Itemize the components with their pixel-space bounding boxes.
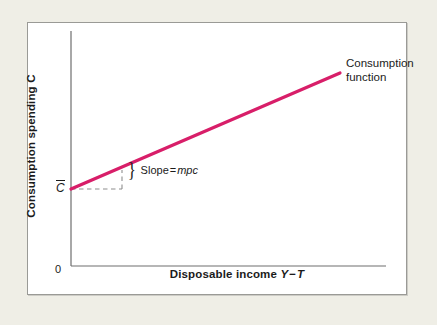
x-axis-title: Disposable income Y−T: [72, 268, 402, 280]
slope-label-equals: =: [169, 164, 177, 176]
slope-label-prefix: Slope: [141, 164, 169, 176]
consumption-function-line: [71, 73, 340, 189]
origin-label: 0: [55, 263, 61, 275]
y-axis-title-prefix: Consumption spending: [25, 86, 37, 217]
callout-line-2: function: [346, 71, 414, 85]
figure-root: Consumption spending C Disposable income…: [0, 0, 437, 325]
slope-label: Slope=mpc: [141, 164, 198, 176]
y-axis-title: Consumption spending C: [25, 61, 43, 231]
callout-line-1: Consumption: [346, 57, 414, 71]
slope-brace-icon: }: [128, 161, 136, 178]
y-axis-title-variable: C: [25, 74, 37, 82]
intercept-label: C: [56, 180, 65, 194]
intercept-label-text: C: [56, 180, 65, 194]
x-axis-title-minus: −: [288, 268, 297, 280]
x-axis-title-prefix: Disposable income: [170, 268, 277, 280]
x-axis-title-variable-t: T: [297, 268, 304, 280]
slope-annotation: } Slope=mpc: [127, 161, 198, 178]
consumption-function-callout: Consumption function: [346, 57, 414, 84]
slope-label-value: mpc: [177, 164, 198, 176]
chart-panel: Consumption spending C Disposable income…: [27, 22, 407, 295]
